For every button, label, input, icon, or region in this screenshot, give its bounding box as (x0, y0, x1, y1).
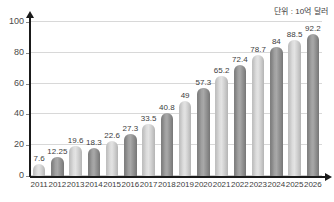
bar-value-label: 27.3 (123, 124, 139, 133)
bar-value-label: 19.6 (68, 136, 84, 145)
bar-slot: 27.3 (121, 22, 139, 176)
bar[interactable] (197, 88, 210, 176)
bar[interactable] (51, 157, 64, 176)
bar[interactable] (307, 34, 320, 176)
bar-slot: 33.5 (140, 22, 158, 176)
bar-slot: 12.25 (48, 22, 66, 176)
bar-value-label: 40.8 (159, 103, 175, 112)
bar-value-label: 88.5 (287, 30, 303, 39)
x-tick-label: 2026 (301, 180, 325, 190)
bar-slot: 84 (267, 22, 285, 176)
bar[interactable] (33, 164, 46, 176)
bar[interactable] (270, 47, 283, 176)
y-tick-label: 100 (2, 17, 24, 26)
bar-slot: 7.6 (30, 22, 48, 176)
bar-slot: 78.7 (249, 22, 267, 176)
bar-slot: 49 (176, 22, 194, 176)
bar-value-label: 65.2 (214, 66, 230, 75)
bar-value-label: 78.7 (250, 45, 266, 54)
bar-slot: 57.3 (194, 22, 212, 176)
unit-note: 단위 : 10억 달러 (274, 7, 328, 17)
bar-value-label: 57.3 (196, 78, 212, 87)
bar-series: 7.612.2519.618.322.627.333.540.84957.365… (30, 22, 322, 176)
bar-slot: 72.4 (231, 22, 249, 176)
bar[interactable] (288, 40, 301, 176)
bar-value-label: 92.2 (305, 24, 321, 33)
x-axis-arrow-icon (325, 173, 332, 181)
x-axis-labels: 2011201220132014201520162017201820192020… (30, 180, 322, 194)
bar-value-label: 49 (181, 91, 190, 100)
y-tick-label: 60 (2, 79, 24, 88)
bar[interactable] (161, 113, 174, 176)
bar[interactable] (88, 148, 101, 176)
x-axis-line (30, 176, 326, 178)
bar-chart: 단위 : 10억 달러 020406080100 7.612.2519.618.… (0, 0, 334, 202)
bar-slot: 18.3 (85, 22, 103, 176)
bar[interactable] (234, 65, 247, 176)
bar[interactable] (69, 146, 82, 176)
bar-slot: 19.6 (67, 22, 85, 176)
bar-slot: 92.2 (304, 22, 322, 176)
bar-slot: 88.5 (286, 22, 304, 176)
bar-value-label: 22.6 (104, 131, 120, 140)
bar[interactable] (252, 55, 265, 176)
bar-slot: 22.6 (103, 22, 121, 176)
y-tick-label: 40 (2, 109, 24, 118)
y-axis-arrow-icon (26, 11, 34, 18)
bar[interactable] (142, 124, 155, 176)
bar[interactable] (124, 134, 137, 176)
bar-value-label: 72.4 (232, 55, 248, 64)
bar-value-label: 33.5 (141, 114, 157, 123)
bar-value-label: 18.3 (86, 138, 102, 147)
bar[interactable] (179, 101, 192, 176)
bar[interactable] (215, 76, 228, 176)
y-tick-label: 0 (2, 171, 24, 180)
y-tick-label: 80 (2, 48, 24, 57)
bar[interactable] (106, 141, 119, 176)
bar-slot: 65.2 (213, 22, 231, 176)
bar-slot: 40.8 (158, 22, 176, 176)
y-tick-label: 20 (2, 140, 24, 149)
bar-value-label: 7.6 (34, 154, 45, 163)
bar-value-label: 12.25 (47, 147, 67, 156)
bar-value-label: 84 (272, 37, 281, 46)
